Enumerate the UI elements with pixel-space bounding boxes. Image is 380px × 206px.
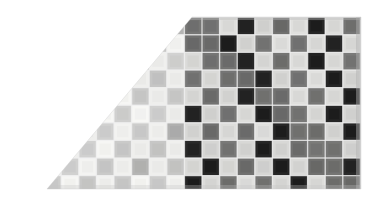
checker-cell-core: [276, 126, 287, 137]
checker-cell-core: [152, 73, 163, 84]
checker-cell-core: [205, 126, 216, 137]
checker-cell-core: [258, 108, 269, 119]
checker-cell-core: [276, 38, 287, 49]
checker-cell-core: [188, 20, 199, 31]
checker-cell-core: [346, 91, 357, 102]
checker-cell-core: [240, 73, 251, 84]
checker-cell-core: [240, 108, 251, 119]
checker-cell-core: [223, 38, 234, 49]
checker-cell-core: [328, 73, 339, 84]
checker-cell-core: [293, 20, 304, 31]
checker-cell-core: [311, 126, 322, 137]
checker-cell-core: [328, 56, 339, 67]
checker-cell-core: [346, 73, 357, 84]
checker-cell-core: [205, 144, 216, 155]
checker-cell-core: [240, 144, 251, 155]
checker-cell-core: [276, 91, 287, 102]
texture-swatch-figure: [0, 0, 380, 206]
checker-cell-core: [205, 108, 216, 119]
checker-cell-core: [240, 91, 251, 102]
checker-cell-core: [258, 161, 269, 172]
checker-cell-core: [223, 56, 234, 67]
checker-cell-core: [188, 108, 199, 119]
checker-cell-core: [276, 73, 287, 84]
checker-cell-core: [311, 73, 322, 84]
checker-cell-core: [188, 38, 199, 49]
checker-cell-core: [117, 161, 128, 172]
checker-cell-core: [311, 38, 322, 49]
checker-cell-core: [276, 108, 287, 119]
checker-cell-core: [258, 20, 269, 31]
checker-cell-core: [117, 126, 128, 137]
checker-cell-core: [135, 144, 146, 155]
checker-cell-core: [293, 91, 304, 102]
checker-cell-core: [328, 108, 339, 119]
checker-cell-core: [188, 56, 199, 67]
checker-cell-core: [170, 108, 181, 119]
screenshot-root: Checkerboard Texture Swatch Gingham / ch…: [0, 0, 380, 206]
checker-cell-core: [258, 38, 269, 49]
checker-cell-core: [223, 108, 234, 119]
checker-cell-core: [328, 126, 339, 137]
checker-cell-core: [311, 108, 322, 119]
checker-cell-core: [328, 38, 339, 49]
checker-cell-core: [152, 161, 163, 172]
checker-cell-core: [240, 56, 251, 67]
checker-cell-core: [223, 144, 234, 155]
checker-cell-core: [135, 161, 146, 172]
checker-cell-core: [240, 126, 251, 137]
checker-cell-core: [346, 38, 357, 49]
checker-cell-core: [223, 126, 234, 137]
checker-cell-core: [223, 20, 234, 31]
checker-cell-core: [276, 56, 287, 67]
checker-cell-core: [293, 144, 304, 155]
checker-cell-core: [205, 73, 216, 84]
checker-cell-core: [311, 56, 322, 67]
checker-cell-core: [223, 73, 234, 84]
checker-cell-core: [346, 161, 357, 172]
checker-cell-core: [276, 20, 287, 31]
checker-cell-core: [152, 144, 163, 155]
checker-cell-core: [170, 126, 181, 137]
checker-cell-core: [205, 20, 216, 31]
checker-cell-core: [188, 144, 199, 155]
checker-cell-core: [293, 108, 304, 119]
checker-cell-core: [293, 56, 304, 67]
checker-cell-core: [258, 91, 269, 102]
checker-cell-core: [100, 126, 111, 137]
checker-cell-core: [135, 108, 146, 119]
checker-cell-core: [346, 20, 357, 31]
checker-cell-core: [346, 126, 357, 137]
checker-cell-core: [311, 91, 322, 102]
checker-cell-core: [135, 126, 146, 137]
checker-cell-core: [117, 144, 128, 155]
checker-cell-core: [240, 161, 251, 172]
checker-cell-core: [170, 73, 181, 84]
checker-cell-core: [188, 73, 199, 84]
checker-cell-core: [205, 161, 216, 172]
checker-cell-core: [258, 144, 269, 155]
checker-cell-core: [205, 91, 216, 102]
checker-cell-core: [117, 108, 128, 119]
texture-svg: [0, 0, 380, 206]
checker-cell-core: [346, 56, 357, 67]
checker-cell-core: [188, 161, 199, 172]
checker-cell-core: [293, 73, 304, 84]
checker-cell-core: [311, 161, 322, 172]
checker-cell-core: [223, 91, 234, 102]
checker-cell-core: [311, 20, 322, 31]
checker-cell-core: [170, 91, 181, 102]
checker-cell-core: [346, 144, 357, 155]
checker-cell-core: [223, 161, 234, 172]
checker-cell-core: [293, 38, 304, 49]
checker-cell-core: [328, 20, 339, 31]
checker-cell-core: [328, 161, 339, 172]
checker-cell-core: [258, 126, 269, 137]
checker-cell-core: [82, 161, 93, 172]
checker-cell-core: [240, 38, 251, 49]
checker-cell-core: [135, 91, 146, 102]
checker-cell-core: [276, 161, 287, 172]
checker-cell-core: [293, 126, 304, 137]
checker-cell-core: [205, 56, 216, 67]
checker-cell-core: [346, 108, 357, 119]
